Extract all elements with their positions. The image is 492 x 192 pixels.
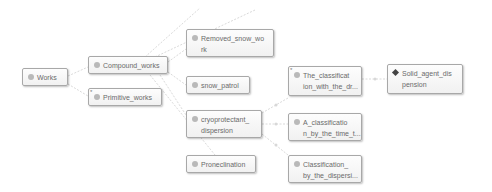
class-icon <box>294 72 300 78</box>
node-label: Primitive_works <box>103 94 152 101</box>
node-primitive-works[interactable]: * Primitive_works <box>88 88 162 106</box>
expand-marker: * <box>290 67 292 73</box>
edge-compound-removed <box>168 49 186 62</box>
node-label: Removed_snow_wo rk <box>201 35 264 53</box>
node-snow-patrol[interactable]: snow_patrol <box>186 76 250 94</box>
class-icon <box>294 119 300 125</box>
node-label: cryoprotectant_ dispersion <box>201 116 249 134</box>
edge-works-compound <box>68 67 88 76</box>
node-cryoprotectant-dispersion[interactable]: cryoprotectant_ dispersion <box>186 110 262 138</box>
edge-compound-cryo <box>160 75 186 115</box>
class-icon <box>294 161 300 167</box>
node-compound-works[interactable]: Compound_works <box>88 56 168 74</box>
node-classification-by-time[interactable]: A_classificatio n_by_the_time_t... <box>288 113 362 141</box>
node-label: Proneclination <box>201 161 245 168</box>
node-solid-agent-dispension[interactable]: Solid_agent_dis pension <box>387 64 463 94</box>
edge-marker <box>275 104 278 107</box>
node-classification-with-dr[interactable]: * The_classificat ion_with_the_dr... <box>288 66 362 96</box>
class-icon <box>192 82 198 88</box>
node-label: Compound_works <box>103 62 159 69</box>
edge-marker <box>275 144 278 147</box>
node-classification-by-dispersion[interactable]: Classification_ by_the_dispersi... <box>288 155 362 183</box>
class-icon <box>94 94 100 100</box>
node-proneclination[interactable]: Proneclination <box>186 155 256 173</box>
class-icon <box>192 35 198 41</box>
node-label: Works <box>37 74 57 81</box>
class-icon <box>94 62 100 68</box>
edge-marker <box>374 78 377 81</box>
edge-marker <box>275 123 278 126</box>
edge-compound-patrol <box>168 72 186 85</box>
node-removed-snow-work[interactable]: Removed_snow_wo rk <box>186 29 274 57</box>
node-label: A_classificatio n_by_the_time_t... <box>303 119 361 137</box>
node-label: Classification_ by_the_dispersi... <box>303 161 358 179</box>
class-icon <box>28 74 34 80</box>
node-label: The_classificat ion_with_the_dr... <box>303 72 358 90</box>
individual-diamond-icon <box>392 69 399 76</box>
node-label: snow_patrol <box>201 82 239 89</box>
node-works[interactable]: Works <box>22 68 68 86</box>
class-icon <box>192 116 198 122</box>
node-label: Solid_agent_dis pension <box>402 70 452 88</box>
expand-marker: * <box>90 89 92 95</box>
edge-works-primitive <box>68 84 88 96</box>
class-icon <box>192 161 198 167</box>
